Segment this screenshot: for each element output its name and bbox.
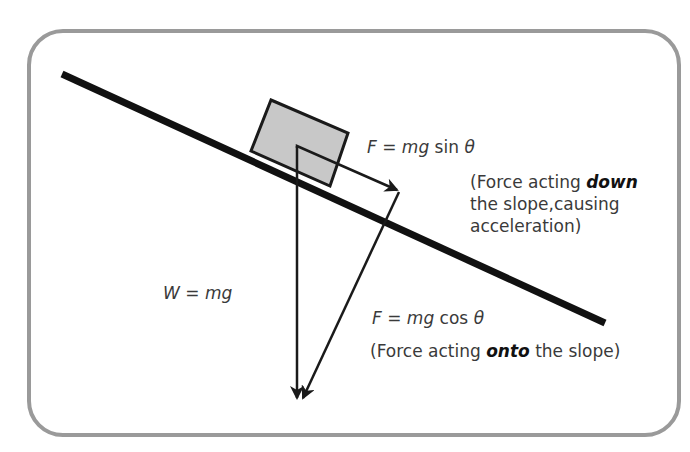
- sin-note-line2: the slope,causing: [470, 193, 638, 215]
- mg-term: mg: [407, 308, 434, 328]
- sin-force-formula: F = mg sin θ: [367, 136, 475, 158]
- cos-force-formula: F = mg cos θ: [372, 307, 484, 329]
- cos-note-suffix: the slope): [530, 341, 621, 361]
- cos-function: cos: [434, 308, 473, 328]
- sin-note-prefix: (Force acting: [470, 172, 586, 192]
- theta-symbol: θ: [474, 308, 484, 328]
- mg-term: mg: [402, 137, 429, 157]
- weight-symbol: W: [163, 283, 180, 303]
- equals-sign: =: [382, 308, 407, 328]
- cos-note-prefix: (Force acting: [370, 341, 486, 361]
- force-symbol: F: [372, 308, 382, 328]
- sin-force-note: (Force acting down the slope,causing acc…: [470, 171, 638, 237]
- sin-note-line1: (Force acting down: [470, 171, 638, 193]
- equals-sign: =: [180, 283, 205, 303]
- cos-force-note: (Force acting onto the slope): [370, 340, 620, 362]
- equals-sign: =: [377, 137, 402, 157]
- sin-function: sin: [429, 137, 464, 157]
- sin-note-emphasis: down: [586, 172, 638, 192]
- theta-symbol: θ: [464, 137, 474, 157]
- force-symbol: F: [367, 137, 377, 157]
- cos-force-arrow: [303, 192, 399, 398]
- cos-note-emphasis: onto: [486, 341, 530, 361]
- sin-note-line3: acceleration): [470, 215, 638, 237]
- weight-formula: W = mg: [163, 282, 232, 304]
- block: [251, 100, 348, 186]
- mg-term: mg: [205, 283, 232, 303]
